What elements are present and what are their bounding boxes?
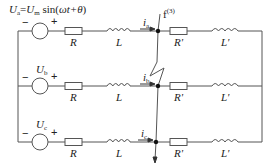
source-c-label: Uc (36, 119, 47, 132)
source-b-plus: + (51, 71, 57, 82)
inductor-c-label: L (116, 148, 122, 159)
source-a-equation: Ua=Um sin(ωt+θ) (9, 3, 86, 17)
source-c-main: U (36, 118, 44, 130)
resistor-b-label: R (70, 92, 77, 103)
source-c-plus: + (51, 127, 57, 138)
voltage-source-c-icon (32, 134, 48, 150)
eq-close: ) (83, 3, 87, 15)
current-c-sub: c (144, 133, 147, 141)
inductor-a-label: L (116, 37, 122, 48)
inductor-a-icon (107, 29, 130, 32)
resistor-prime-b-icon (170, 83, 187, 90)
circuit-diagram (0, 0, 276, 168)
inductor-prime-a-label: L' (221, 37, 229, 48)
inductor-prime-b-icon (212, 84, 238, 87)
fault-node-a-icon (156, 29, 160, 33)
voltage-source-b-icon (32, 78, 48, 94)
source-a-plus: + (51, 16, 57, 27)
inductor-prime-a-icon (212, 29, 238, 32)
inductor-prime-c-icon (212, 140, 238, 143)
inductor-c-icon (107, 140, 130, 143)
resistor-prime-a-icon (170, 28, 187, 35)
eq-func: sin( (40, 3, 59, 15)
source-b-sub: b (44, 69, 48, 77)
source-c-sub: c (44, 124, 47, 132)
current-arrowhead-a-icon (150, 27, 155, 31)
fault-node-b-icon (156, 84, 160, 88)
fault-node-c-icon (154, 140, 158, 144)
current-c-label: ic (141, 128, 147, 141)
resistor-prime-c-label: R' (174, 148, 183, 159)
eq-arg: ωt+θ (59, 3, 83, 15)
source-b-main: U (36, 63, 44, 75)
current-a-label: ia (143, 17, 149, 30)
current-a-sub: a (146, 22, 149, 30)
eq-lhs: U (9, 3, 17, 15)
inductor-b-label: L (116, 92, 122, 103)
inductor-prime-b-label: L' (221, 92, 229, 103)
source-a-minus: − (22, 17, 28, 28)
source-b-label: Ub (36, 64, 47, 77)
resistor-c-label: R (70, 148, 77, 159)
resistor-prime-c-icon (170, 139, 187, 146)
current-arrowhead-c-icon (148, 138, 153, 142)
fault-arrowhead-down-icon (153, 157, 157, 163)
resistor-a-label: R (70, 37, 77, 48)
resistor-a-icon (65, 28, 82, 35)
current-arrowhead-b-icon (150, 82, 155, 86)
resistor-prime-a-label: R' (174, 37, 183, 48)
inductor-prime-c-label: L' (221, 148, 229, 159)
resistor-c-icon (65, 139, 82, 146)
current-b-sub: b (146, 77, 150, 85)
resistor-b-icon (65, 83, 82, 90)
voltage-source-a-icon (32, 23, 48, 39)
source-b-minus: − (22, 72, 28, 83)
source-c-minus: − (22, 128, 28, 139)
resistor-prime-b-label: R' (174, 92, 183, 103)
current-b-label: ib (143, 72, 150, 85)
inductor-b-icon (107, 84, 130, 87)
fault-sup: (3) (167, 7, 175, 15)
fault-label: f(3) (163, 8, 175, 20)
